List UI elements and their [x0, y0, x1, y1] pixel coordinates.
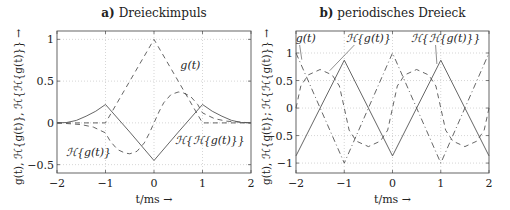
series-annotation: g(t) [180, 59, 200, 72]
x-tick-label: 2 [248, 177, 255, 190]
chart-a: −2−1012−0.500.51g(t)ℋ{g(t)}ℋ{ℋ{g(t)}}t/m… [12, 29, 255, 206]
x-tick-label: 2 [486, 177, 493, 190]
series-annotation: ℋ{ℋ{g(t)}} [411, 32, 481, 45]
x-tick-label: 0 [151, 177, 158, 190]
y-tick-label: 0 [47, 117, 54, 130]
y-tick-label: −1 [277, 157, 293, 170]
annotation-pointer [300, 45, 302, 60]
y-axis-label: g(t), ℋ{g(t)}, ℋ{ℋ{g(t)}} → [12, 29, 25, 185]
series-annotation: ℋ{ℋ{g(t)}} [175, 134, 245, 147]
x-axis-label: t/ms → [136, 193, 173, 206]
x-axis-label: t/ms → [374, 193, 411, 206]
x-tick-label: −2 [288, 177, 304, 190]
y-axis-label: g(t), ℋ{g(t)}; ℋ{ℋ{g(t)}} → [260, 29, 273, 185]
x-tick-label: 0 [389, 177, 396, 190]
charts-canvas: −2−1012−0.500.51g(t)ℋ{g(t)}ℋ{ℋ{g(t)}}t/m… [0, 0, 510, 210]
x-tick-label: 1 [199, 177, 206, 190]
x-tick-label: −1 [97, 177, 113, 190]
x-tick-label: −1 [336, 177, 352, 190]
y-tick-label: −0.5 [27, 159, 54, 172]
x-tick-label: 1 [437, 177, 444, 190]
series-annotation: g(t) [296, 32, 316, 45]
y-tick-label: 1 [286, 47, 293, 60]
y-tick-label: 0.5 [276, 75, 294, 88]
chart-b: −2−1012−1−0.500.51g(t)ℋ{g(t)}ℋ{ℋ{g(t)}}t… [260, 29, 493, 206]
y-tick-label: 0 [286, 102, 293, 115]
annotation-pointer [436, 45, 437, 64]
y-tick-label: 0.5 [37, 75, 55, 88]
x-tick-label: −2 [49, 177, 65, 190]
series-annotation: ℋ{g(t)} [66, 146, 111, 159]
series-annotation: ℋ{g(t)} [346, 32, 391, 45]
y-tick-label: 1 [47, 33, 54, 46]
annotation-pointer [330, 45, 355, 71]
